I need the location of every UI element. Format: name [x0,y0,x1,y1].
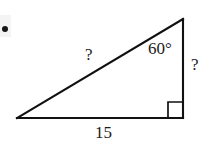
angle-label: 60° [148,40,172,57]
diagram-canvas: 60° ? ? 15 [0,0,217,145]
vertical-leg-label: ? [191,56,199,73]
triangle-hypotenuse-edge [17,19,183,118]
hypotenuse-label: ? [85,46,93,63]
right-angle-marker-icon [168,102,183,118]
triangle-outline [17,19,183,118]
base-length-label: 15 [95,124,112,141]
